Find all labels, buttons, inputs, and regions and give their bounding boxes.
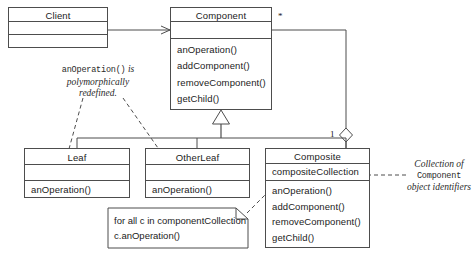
- operation-item: anOperation(): [171, 45, 271, 55]
- inheritance-triangle: [213, 110, 230, 124]
- multiplicity-composite-end: 1: [330, 129, 335, 139]
- class-title-compartment-client: Client: [9, 8, 107, 22]
- class-attributes-compartment-composite: compositeCollection: [266, 164, 369, 181]
- class-name-otherleaf: OtherLeaf: [146, 153, 249, 163]
- annotation-polymorphic: anOperation() is polymorphically redefin…: [38, 64, 158, 100]
- operation-item: anOperation(): [25, 185, 129, 195]
- annotation-polymorphic-line1: is: [128, 64, 134, 74]
- class-attributes-compartment-otherleaf: [146, 165, 249, 181]
- operation-item: addComponent(): [266, 202, 369, 212]
- annotation-polymorphic-line3: redefined.: [79, 88, 117, 98]
- annotation-collection-line2: object identifiers: [407, 182, 471, 192]
- aggregation-diamond: [340, 128, 353, 142]
- annotation-polymorphic-line2: polymorphically: [67, 77, 129, 87]
- class-title-compartment-component: Component: [171, 8, 271, 22]
- class-title-compartment-leaf: Leaf: [25, 149, 129, 165]
- class-title-compartment-composite: Composite: [266, 149, 369, 164]
- operation-item: getChild(): [266, 233, 369, 243]
- class-operations-compartment-leaf: anOperation(): [25, 181, 129, 198]
- note-line-1: for all c in componentCollection: [114, 214, 246, 227]
- annotation-collection-line1: Collection of: [414, 159, 463, 169]
- class-attributes-compartment-client: [9, 22, 107, 35]
- class-operations-compartment-client: [9, 35, 107, 47]
- aggregation-component-composite: [272, 30, 353, 148]
- operation-item: getChild(): [171, 94, 271, 104]
- class-box-leaf[interactable]: Leaf anOperation(): [24, 148, 130, 198]
- operation-item: removeComponent(): [171, 78, 271, 88]
- uml-class-diagram: Component (association) -->: [0, 0, 472, 253]
- operation-item: anOperation(): [266, 186, 369, 196]
- class-box-composite[interactable]: Composite compositeCollection anOperatio…: [265, 148, 370, 248]
- class-attributes-compartment-component: [171, 22, 271, 39]
- multiplicity-component-end: *: [278, 11, 283, 21]
- class-box-component[interactable]: Component anOperation() addComponent() r…: [170, 7, 272, 110]
- note-box[interactable]: for all c in componentCollection c.anOpe…: [108, 208, 248, 248]
- generalization-fork: [77, 110, 346, 148]
- class-box-otherleaf[interactable]: OtherLeaf anOperation(): [145, 148, 250, 198]
- operation-item: addComponent(): [171, 61, 271, 71]
- annotation-collection: Collection of Component object identifie…: [406, 159, 472, 193]
- annotation-polymorphic-code: anOperation(): [62, 65, 126, 75]
- class-attributes-compartment-leaf: [25, 165, 129, 181]
- class-operations-compartment-component: anOperation() addComponent() removeCompo…: [171, 39, 271, 109]
- class-box-client[interactable]: Client: [8, 7, 108, 48]
- annotation-collection-code: Component: [417, 171, 461, 181]
- class-operations-compartment-otherleaf: anOperation(): [146, 181, 249, 198]
- class-name-client: Client: [9, 11, 107, 21]
- note-line-2: c.anOperation(): [114, 229, 180, 242]
- class-operations-compartment-composite: anOperation() addComponent() removeCompo…: [266, 181, 369, 247]
- class-name-leaf: Leaf: [25, 153, 129, 163]
- class-name-component: Component: [171, 11, 271, 21]
- class-title-compartment-otherleaf: OtherLeaf: [146, 149, 249, 165]
- operation-item: anOperation(): [146, 185, 249, 195]
- class-name-composite: Composite: [266, 152, 369, 162]
- attribute-item: compositeCollection: [266, 167, 369, 177]
- operation-item: removeComponent(): [266, 217, 369, 227]
